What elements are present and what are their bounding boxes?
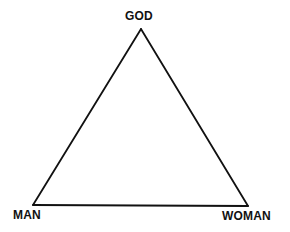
edge-god-woman <box>141 29 248 206</box>
edge-man-woman <box>33 205 248 206</box>
triangle-diagram: GOD MAN WOMAN <box>0 0 290 232</box>
edge-god-man <box>33 29 141 205</box>
vertex-label-god: GOD <box>125 10 153 22</box>
vertex-label-man: MAN <box>13 209 41 221</box>
triangle-shape <box>0 0 290 232</box>
vertex-label-woman: WOMAN <box>222 210 271 222</box>
